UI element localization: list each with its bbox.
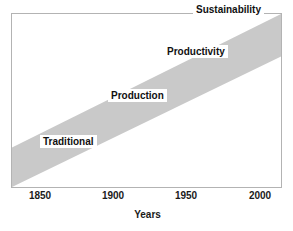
x-tick-label-2000: 2000 — [230, 190, 290, 202]
x-tick-label-1950: 1950 — [156, 190, 216, 202]
stage-label-production: Production — [108, 89, 167, 102]
x-tick-label-1850: 1850 — [10, 190, 70, 202]
x-axis-title-wrapper: Years — [0, 208, 293, 221]
x-axis-title: Years — [134, 208, 161, 221]
stage-label-sustainability: Sustainability — [193, 3, 264, 16]
stage-label-productivity: Productivity — [164, 45, 228, 58]
stage-label-traditional: Traditional — [40, 135, 97, 148]
x-tick-label-1900: 1900 — [83, 190, 143, 202]
chart-figure: Traditional Production Productivity Sust… — [0, 0, 293, 231]
